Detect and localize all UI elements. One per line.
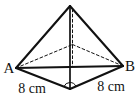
edge-apex-a: [16, 6, 70, 68]
right-edge-measure: 8 cm: [97, 79, 125, 94]
vertex-a-label: A: [4, 60, 15, 76]
edge-back-b: [73, 45, 124, 67]
pyramid-figure: AB8 cm8 cm: [0, 0, 138, 98]
vertex-b-label: B: [125, 58, 135, 74]
edge-a-b: [16, 66, 123, 68]
edges-group: [16, 6, 123, 89]
edge-apex-b: [70, 6, 123, 66]
edge-a-back: [16, 45, 73, 69]
pyramid-diagram: AB8 cm8 cm: [0, 0, 138, 98]
left-edge-measure: 8 cm: [18, 81, 46, 96]
